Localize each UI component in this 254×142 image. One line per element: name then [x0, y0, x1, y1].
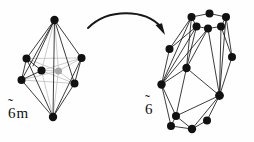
polyhedra-transformation-figure: 6 ̃ m	[0, 0, 254, 142]
vertex-r-bottom-right	[203, 117, 211, 125]
left-label-suffix: m	[17, 105, 29, 121]
vertex-r-top-right	[222, 13, 230, 21]
vertex-r-bottom-left	[172, 112, 180, 120]
vertex-r-inner-left	[193, 23, 201, 31]
right-label-base: 6	[145, 101, 153, 117]
left-label-base: 6	[8, 105, 16, 121]
vertex-ring-front-left	[38, 67, 46, 75]
vertex-r-bottom-center	[188, 125, 196, 133]
vertex-ring-back-lower	[18, 76, 26, 84]
vertex-r-bottom-far-left	[167, 122, 175, 130]
vertex-ring-left	[23, 55, 31, 63]
vertex-ring-right	[78, 54, 86, 62]
vertex-ring-front-right	[71, 80, 79, 88]
vertex-r-top-center	[206, 10, 214, 18]
vertex-apex-top	[50, 16, 58, 24]
vertex-r-inner-right	[217, 23, 225, 31]
vertex-r-left-upper	[166, 45, 174, 53]
vertex-r-right-lower	[215, 91, 224, 100]
vertex-apex-bottom	[49, 113, 57, 121]
vertex-center-atom	[55, 67, 62, 74]
figure-root: 6 ̃ m	[0, 0, 254, 142]
vertex-r-inner-center	[204, 25, 212, 33]
vertex-r-right-upper	[228, 53, 236, 61]
vertex-r-middle	[182, 64, 190, 72]
vertex-r-left-lower	[157, 80, 165, 88]
vertex-r-top-left	[188, 13, 196, 21]
